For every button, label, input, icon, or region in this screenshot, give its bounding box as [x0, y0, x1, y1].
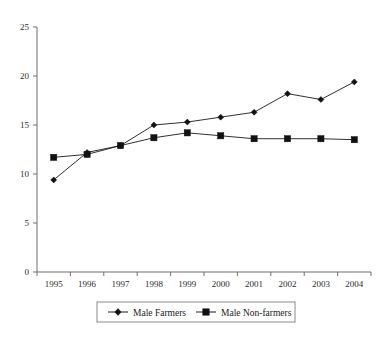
- x-tick-label: 2000: [212, 279, 231, 289]
- square-marker-icon: [84, 151, 90, 157]
- square-marker-icon: [351, 137, 357, 143]
- square-marker-icon: [117, 142, 123, 148]
- diamond-marker-icon: [351, 79, 357, 85]
- square-marker-icon: [184, 130, 190, 136]
- chart-container: 0510152025 19951996199719981999200020012…: [0, 0, 382, 338]
- square-marker-icon: [151, 135, 157, 141]
- chart-legend: Male Farmers Male Non-farmers: [97, 302, 295, 322]
- x-tick-label: 2004: [345, 279, 364, 289]
- diamond-marker-icon: [151, 122, 157, 128]
- series-layer: [51, 79, 358, 183]
- series-male-farmers: [51, 79, 358, 183]
- x-tick-label: 2003: [312, 279, 331, 289]
- square-marker-icon: [51, 154, 57, 160]
- y-tick-label: 0: [25, 267, 30, 277]
- diamond-marker-icon: [184, 119, 190, 125]
- x-tick-label: 1997: [112, 279, 131, 289]
- diamond-marker-icon: [318, 97, 324, 103]
- line-chart: 0510152025 19951996199719981999200020012…: [0, 0, 382, 338]
- diamond-marker-icon: [218, 114, 224, 120]
- y-tick-label: 20: [20, 71, 30, 81]
- y-tick-label: 5: [25, 218, 30, 228]
- legend-label-male-farmers: Male Farmers: [133, 308, 186, 318]
- x-tick-label: 2002: [279, 279, 297, 289]
- square-marker-icon: [318, 136, 324, 142]
- x-tick-label: 1999: [178, 279, 197, 289]
- x-tick-label: 1996: [78, 279, 97, 289]
- y-tick-label: 15: [20, 120, 30, 130]
- x-tick-label: 1998: [145, 279, 164, 289]
- diamond-marker-icon: [251, 109, 257, 115]
- diamond-marker-icon: [285, 91, 291, 97]
- series-line: [54, 133, 355, 158]
- y-axis-ticks: 0510152025: [20, 22, 37, 277]
- x-tick-label: 2001: [245, 279, 263, 289]
- y-tick-label: 25: [20, 22, 30, 32]
- y-tick-label: 10: [20, 169, 30, 179]
- square-marker-icon: [251, 136, 257, 142]
- legend-label-male-non-farmers: Male Non-farmers: [221, 308, 292, 318]
- square-marker-icon: [203, 309, 209, 315]
- series-line: [54, 82, 355, 180]
- x-tick-label: 1995: [45, 279, 64, 289]
- series-male-non-farmers: [51, 130, 358, 161]
- x-axis-ticks: 1995199619971998199920002001200220032004: [37, 272, 371, 289]
- square-marker-icon: [218, 133, 224, 139]
- square-marker-icon: [284, 136, 290, 142]
